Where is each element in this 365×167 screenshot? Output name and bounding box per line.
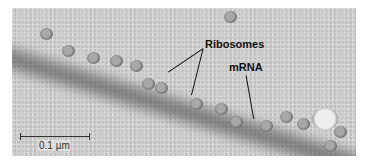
ribosome [130,60,143,72]
ribosome [324,140,337,152]
ribosome [215,103,228,115]
ribosomes-label: Ribosomes [205,38,264,50]
ribosome [40,28,53,40]
ribosome [142,78,155,90]
scale-bar-label: 0.1 µm [38,140,71,151]
ribosome [260,120,273,132]
ribosome [190,98,203,110]
ribosome [110,55,123,67]
mrna-label: mRNA [229,61,263,73]
ribosome [230,116,243,128]
ribosome [155,82,168,94]
scale-bar [20,136,90,137]
ribosome [87,52,100,64]
ribosome [224,11,237,23]
ribosome [334,126,347,138]
micrograph-image [12,8,356,156]
ribosome [62,45,75,57]
ribosome [280,111,293,123]
particle [312,108,338,130]
ribosome [297,118,310,130]
